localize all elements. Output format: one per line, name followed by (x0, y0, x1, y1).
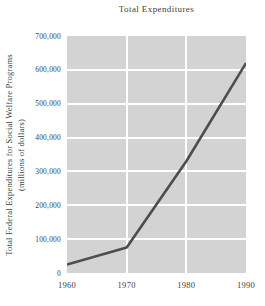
y-axis-label: Total Federal Expenditures for Social We… (4, 54, 14, 256)
y-tick-label: 200,000 (0, 201, 61, 210)
x-tick-label: 1970 (109, 280, 145, 291)
x-tick-label: 1990 (228, 280, 264, 291)
expenditures-line-chart (67, 36, 246, 273)
y-tick-label: 700,000 (0, 32, 61, 41)
y-tick-label: 500,000 (0, 99, 61, 108)
chart-title: Total Expenditures (67, 4, 246, 14)
y-axis-units-label: (millions of dollars) (16, 119, 26, 191)
chart-figure: Total Expenditures Total Federal Expendi… (0, 0, 265, 306)
plot-area (67, 36, 246, 273)
y-tick-label: 100,000 (0, 235, 61, 244)
x-tick-label: 1980 (168, 280, 204, 291)
y-tick-label: 0 (0, 269, 61, 278)
y-tick-label: 600,000 (0, 65, 61, 74)
y-tick-label: 400,000 (0, 133, 61, 142)
expenditures-line (67, 63, 246, 264)
y-tick-label: 300,000 (0, 167, 61, 176)
x-tick-label: 1960 (49, 280, 85, 291)
